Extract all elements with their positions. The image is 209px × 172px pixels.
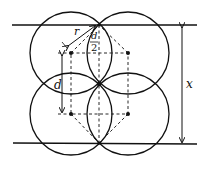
label-r: r (74, 25, 80, 38)
bottom-line (13, 143, 197, 144)
center-dot-bottom-left (69, 112, 73, 116)
intersection-dot-center (97, 82, 101, 86)
label-d: d (54, 78, 62, 92)
center-dot-top-right (126, 51, 130, 55)
circle-packing-diagram: r d 2 d x (0, 0, 209, 172)
label-x: x (186, 77, 193, 91)
intersection-dot-bottom (97, 141, 100, 144)
dashed-hex-br-bottom (99, 114, 128, 143)
radius-tick (62, 42, 67, 48)
dashed-hex-tr-top (99, 25, 128, 53)
intersection-dot-top (97, 23, 100, 26)
dashed-hex-bl-bottom (71, 114, 99, 143)
label-half-d-numerator: d (91, 30, 97, 41)
center-dot-bottom-right (126, 112, 130, 116)
center-dot-top-left (69, 51, 73, 55)
label-half-d-denominator: 2 (91, 42, 97, 53)
